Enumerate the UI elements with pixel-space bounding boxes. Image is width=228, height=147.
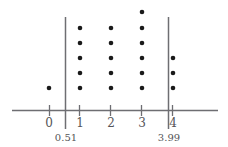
dot-stack-0 bbox=[47, 86, 52, 91]
data-dot bbox=[171, 71, 176, 76]
data-dot bbox=[140, 41, 145, 46]
dot-stack-4 bbox=[171, 56, 176, 91]
reference-label-right: 3.99 bbox=[149, 133, 189, 143]
data-dot bbox=[78, 26, 83, 31]
data-dot bbox=[47, 86, 52, 91]
data-dot bbox=[78, 71, 83, 76]
dotplot-figure: 0 1 2 3 4 0.51 3.99 bbox=[0, 0, 228, 147]
data-dot bbox=[109, 26, 114, 31]
data-dot bbox=[171, 86, 176, 91]
data-dot bbox=[109, 41, 114, 46]
reference-label-left: 0.51 bbox=[46, 133, 86, 143]
data-dot bbox=[140, 26, 145, 31]
data-dot bbox=[140, 86, 145, 91]
data-dot bbox=[140, 10, 145, 15]
data-dot bbox=[109, 71, 114, 76]
dot-stack-1 bbox=[78, 26, 83, 91]
dot-stack-3 bbox=[140, 10, 145, 91]
data-dot bbox=[78, 41, 83, 46]
data-dot bbox=[78, 86, 83, 91]
tick-label-1: 1 bbox=[70, 117, 90, 129]
tick-label-4: 4 bbox=[163, 117, 183, 129]
data-dot bbox=[109, 86, 114, 91]
data-dot bbox=[78, 56, 83, 61]
data-dot bbox=[140, 56, 145, 61]
data-dot bbox=[171, 56, 176, 61]
data-dot bbox=[140, 71, 145, 76]
tick-label-3: 3 bbox=[132, 117, 152, 129]
data-dot bbox=[109, 56, 114, 61]
dot-stack-2 bbox=[109, 26, 114, 91]
tick-label-0: 0 bbox=[39, 117, 59, 129]
tick-label-2: 2 bbox=[101, 117, 121, 129]
